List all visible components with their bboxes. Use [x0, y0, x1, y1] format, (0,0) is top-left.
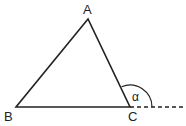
vertex-label-b: B — [4, 110, 13, 123]
triangle-abc — [16, 19, 130, 107]
vertex-label-c: C — [128, 110, 137, 123]
triangle-diagram — [0, 0, 186, 126]
vertex-label-a: A — [83, 3, 92, 16]
angle-label-alpha: α — [132, 91, 139, 103]
